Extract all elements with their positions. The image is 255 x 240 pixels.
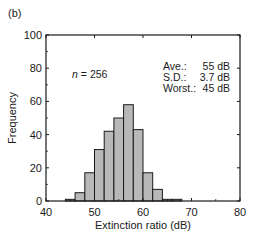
y-tick-label: 100 bbox=[24, 29, 42, 41]
y-axis-title: Frequency bbox=[6, 92, 18, 144]
histogram-bar bbox=[75, 193, 85, 201]
histogram-bar bbox=[104, 131, 114, 201]
x-tick-label: 70 bbox=[185, 206, 197, 218]
stat-label: Worst.: bbox=[163, 82, 196, 94]
histogram-bar bbox=[95, 150, 105, 201]
histogram-bar bbox=[153, 189, 163, 201]
x-tick-label: 40 bbox=[40, 206, 52, 218]
histogram-bars bbox=[65, 105, 181, 201]
y-tick-label: 20 bbox=[30, 162, 42, 174]
y-tick-label: 80 bbox=[30, 62, 42, 74]
sample-count: n= 256 bbox=[72, 68, 108, 80]
y-tick-label: 60 bbox=[30, 95, 42, 107]
histogram-bar bbox=[124, 105, 134, 201]
histogram-bar bbox=[85, 173, 95, 201]
histogram-chart: 020406080100 4050607080 Frequency Extinc… bbox=[0, 0, 255, 240]
histogram-bar bbox=[133, 130, 143, 201]
stat-value: 45 dB bbox=[203, 82, 230, 94]
stats-box: Ave.:55 dBS.D.:3.7 dBWorst.:45 dB bbox=[163, 60, 230, 94]
x-tick-label: 50 bbox=[88, 206, 100, 218]
x-axis-title: Extinction ratio (dB) bbox=[95, 219, 191, 231]
x-tick-label: 80 bbox=[234, 206, 246, 218]
x-tick-label: 60 bbox=[137, 206, 149, 218]
histogram-bar bbox=[114, 118, 124, 201]
y-tick-label: 40 bbox=[30, 129, 42, 141]
histogram-bar bbox=[143, 173, 153, 201]
